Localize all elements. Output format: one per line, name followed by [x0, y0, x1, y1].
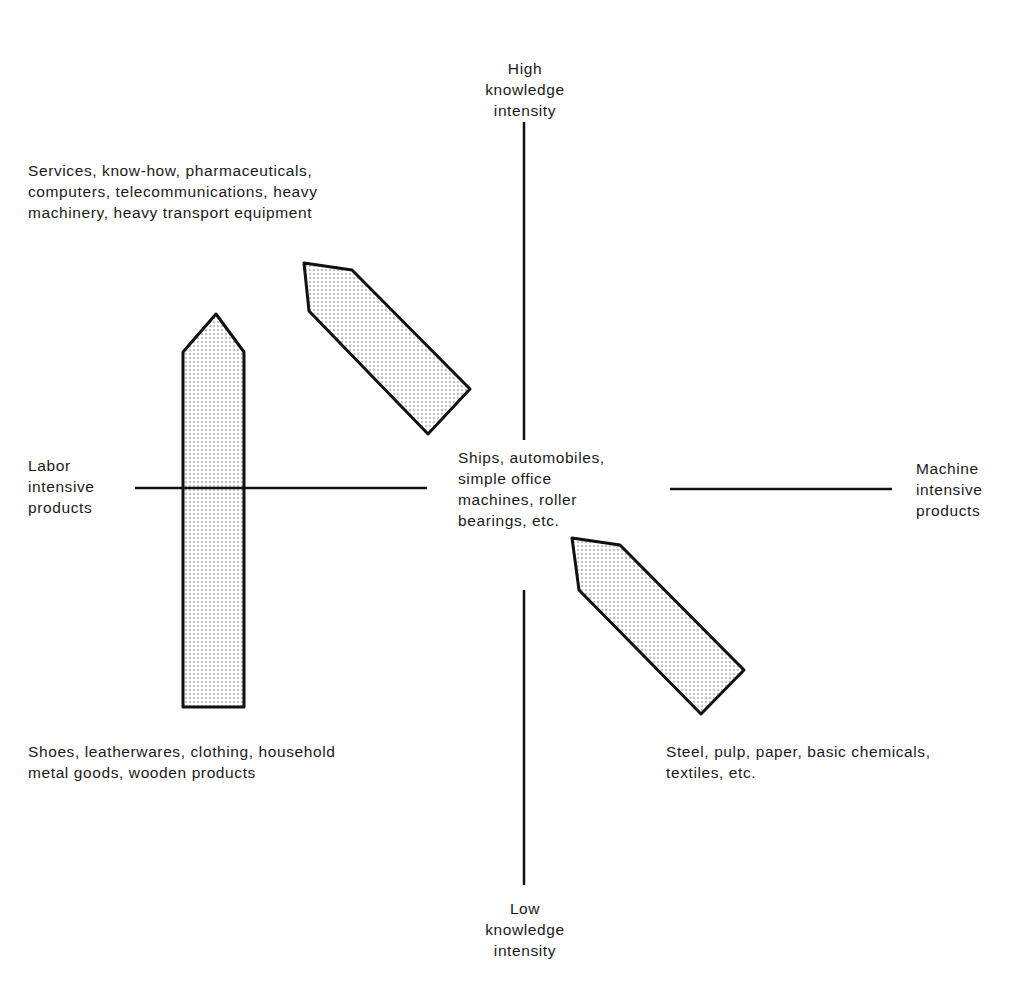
center-to-upper-left-arrow	[304, 263, 470, 434]
quadrant-label-lower-left: Shoes, leatherwares, clothing, household…	[28, 741, 448, 783]
axis-label-high-knowledge: High knowledge intensity	[470, 58, 580, 121]
axis-label-machine-intensive: Machine intensive products	[916, 458, 1026, 521]
quadrant-label-lower-right: Steel, pulp, paper, basic chemicals, tex…	[666, 741, 1031, 783]
quadrant-label-upper-left: Services, know-how, pharmaceuticals, com…	[28, 160, 408, 223]
axis-label-labor-intensive: Labor intensive products	[28, 455, 128, 518]
center-to-lower-right-arrow	[572, 538, 744, 714]
quadrant-label-center: Ships, automobiles, simple office machin…	[458, 447, 658, 531]
labor-to-high-knowledge-arrow	[183, 314, 244, 707]
axis-label-low-knowledge: Low knowledge intensity	[470, 898, 580, 961]
